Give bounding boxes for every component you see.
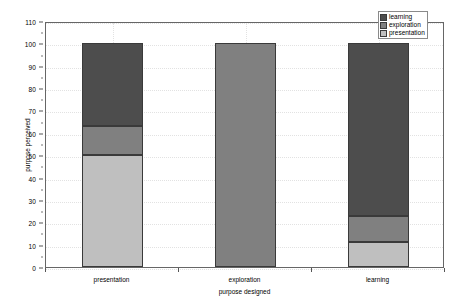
legend-label: exploration: [389, 21, 421, 29]
y-tick-minor: [41, 234, 43, 235]
y-tick-label: 30: [29, 197, 36, 204]
y-tick-minor: [41, 77, 43, 78]
x-tick-label: learning: [366, 276, 389, 283]
legend-item[interactable]: presentation: [380, 29, 425, 37]
y-tick-label: 50: [29, 153, 36, 160]
y-tick-label: 100: [25, 41, 36, 48]
legend-item[interactable]: exploration: [380, 21, 425, 29]
y-tick-mark: [39, 268, 43, 269]
y-tick-mark: [39, 111, 43, 112]
y-axis: purpose perceived 0102030405060708090100…: [0, 22, 45, 268]
legend-item[interactable]: learning: [380, 13, 425, 21]
y-tick-label: 60: [29, 130, 36, 137]
y-tick-minor: [41, 212, 43, 213]
y-tick-mark: [39, 156, 43, 157]
legend-label: learning: [389, 13, 412, 21]
legend-label: presentation: [389, 29, 425, 37]
legend-swatch: [380, 22, 387, 29]
y-tick-label: 90: [29, 63, 36, 70]
y-tick-label: 110: [25, 19, 36, 26]
bar-group[interactable]: [348, 21, 409, 267]
bar-segment[interactable]: [348, 216, 409, 243]
legend-swatch: [380, 30, 387, 37]
y-tick-minor: [41, 189, 43, 190]
y-tick-mark: [39, 245, 43, 246]
y-tick-minor: [41, 145, 43, 146]
bar-segment[interactable]: [348, 43, 409, 215]
bar-segment[interactable]: [82, 126, 143, 155]
y-tick-mark: [39, 178, 43, 179]
x-tick-label: exploration: [229, 276, 261, 283]
y-tick-minor: [41, 122, 43, 123]
stacked-bar-chart: purpose perceived 0102030405060708090100…: [0, 0, 456, 306]
y-tick-mark: [39, 22, 43, 23]
y-tick-mark: [39, 44, 43, 45]
y-tick-label: 70: [29, 108, 36, 115]
x-tick-label: presentation: [94, 276, 130, 283]
legend: learningexplorationpresentation: [378, 11, 428, 39]
x-tick-mark: [311, 268, 312, 272]
y-axis-title: purpose perceived: [24, 118, 31, 171]
y-tick-minor: [41, 167, 43, 168]
bar-segment[interactable]: [348, 242, 409, 267]
bar-segment[interactable]: [82, 43, 143, 126]
y-tick-label: 0: [32, 265, 36, 272]
plot-area: [45, 22, 444, 268]
y-tick-mark: [39, 89, 43, 90]
x-axis-title: purpose designed: [219, 288, 271, 295]
y-tick-mark: [39, 66, 43, 67]
x-axis: presentationexplorationlearning purpose …: [45, 268, 444, 306]
x-tick-mark: [45, 268, 46, 272]
y-tick-label: 80: [29, 86, 36, 93]
bars-layer: [46, 23, 443, 267]
bar-segment[interactable]: [82, 155, 143, 267]
y-tick-label: 10: [29, 242, 36, 249]
bar-group[interactable]: [215, 21, 276, 267]
x-tick-mark: [178, 268, 179, 272]
bar-group[interactable]: [82, 21, 143, 267]
legend-swatch: [380, 14, 387, 21]
y-tick-mark: [39, 200, 43, 201]
x-tick-mark: [444, 268, 445, 272]
y-tick-minor: [41, 55, 43, 56]
y-tick-label: 20: [29, 220, 36, 227]
y-tick-minor: [41, 33, 43, 34]
y-tick-label: 40: [29, 175, 36, 182]
y-tick-minor: [41, 100, 43, 101]
bar-segment[interactable]: [215, 43, 276, 267]
y-tick-minor: [41, 256, 43, 257]
y-tick-mark: [39, 223, 43, 224]
y-tick-mark: [39, 133, 43, 134]
